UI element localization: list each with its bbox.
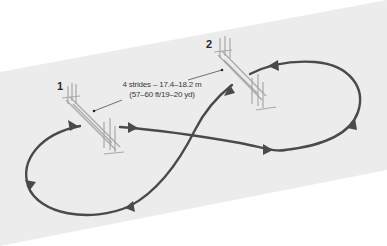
leader-endpoint-2 xyxy=(221,69,224,72)
distance-feet-yards: (57–60 ft/19–20 yd) xyxy=(120,90,204,100)
distance-annotation: 4 strides – 17.4–18.2 m (57–60 ft/19–20 … xyxy=(120,80,204,100)
diagram-svg xyxy=(0,0,387,246)
distance-strides-metres: 4 strides – 17.4–18.2 m xyxy=(120,80,204,90)
fence-2-label: 2 xyxy=(206,38,212,50)
leader-endpoint-1 xyxy=(93,110,96,113)
arena-ground xyxy=(0,0,387,246)
diagram-canvas: 1 2 4 strides – 17.4–18.2 m (57–60 ft/19… xyxy=(0,0,387,246)
fence-1-label: 1 xyxy=(57,80,63,92)
